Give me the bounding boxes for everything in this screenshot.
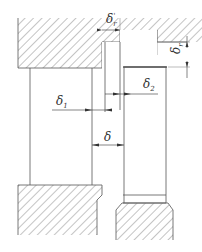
label-delta-r-prime: δr'	[106, 13, 116, 28]
label-subscript: 1	[63, 102, 67, 110]
bottom-left-hatched-block	[18, 185, 102, 235]
label-symbol: δ	[104, 130, 111, 144]
label-subscript: 2	[150, 85, 154, 93]
label-superscript: '	[114, 12, 116, 20]
left-tube	[30, 68, 92, 185]
label-subscript: r	[113, 20, 116, 28]
diagram-canvas	[0, 0, 202, 252]
label-subscript: r	[177, 43, 185, 46]
notch-clearance	[120, 30, 157, 42]
label-delta-2: δ2	[143, 78, 155, 93]
gap-clearance	[102, 42, 157, 68]
label-delta-1: δ1	[56, 95, 68, 110]
bottom-right-hatched-block	[116, 203, 173, 240]
label-delta-r: δr	[170, 43, 185, 54]
label-delta: δ	[104, 131, 111, 143]
label-symbol: δ	[169, 47, 183, 54]
